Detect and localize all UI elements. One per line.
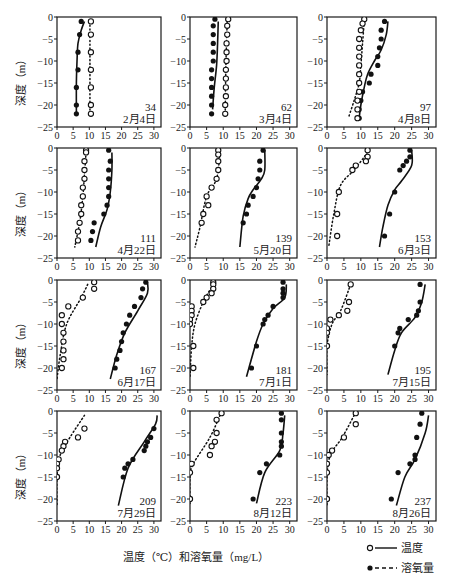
x-tick-label: 0 bbox=[55, 524, 60, 535]
dissolved-oxygen-point bbox=[206, 203, 211, 208]
temperature-point bbox=[121, 330, 126, 335]
dissolved-oxygen-point bbox=[83, 150, 88, 155]
x-tick-label: 10 bbox=[84, 524, 94, 535]
temperature-curve bbox=[246, 284, 286, 376]
x-tick-label: 30 bbox=[149, 261, 159, 272]
temperature-point bbox=[246, 203, 251, 208]
dissolved-oxygen-point bbox=[61, 330, 66, 335]
x-tick-label: 20 bbox=[117, 524, 127, 535]
temperature-point bbox=[251, 496, 256, 501]
temperature-point bbox=[125, 461, 130, 466]
y-axis-title: 深度（m） bbox=[14, 448, 27, 501]
dissolved-oxygen-point bbox=[209, 291, 214, 296]
plot-area bbox=[349, 17, 388, 121]
temperature-point bbox=[261, 321, 266, 326]
y-tick-label: −5 bbox=[42, 165, 53, 176]
panel-date: 8月12日 bbox=[254, 507, 293, 519]
x-tick-label: 15 bbox=[373, 393, 383, 404]
dissolved-oxygen-point bbox=[75, 238, 80, 243]
temperature-point bbox=[212, 17, 217, 22]
dissolved-oxygen-curve bbox=[327, 415, 354, 505]
y-tick-label: −15 bbox=[37, 78, 53, 89]
panel-date: 7月29日 bbox=[118, 507, 157, 519]
dissolved-oxygen-point bbox=[204, 194, 209, 199]
temperature-point bbox=[265, 313, 270, 318]
temperature-point bbox=[92, 220, 97, 225]
x-tick-label: 30 bbox=[424, 524, 434, 535]
panel-223: 0510152025300−5−10−15−20−252238月12日 bbox=[170, 406, 297, 536]
y-tick-label: 0 bbox=[48, 275, 53, 286]
x-axis: 051015202530 bbox=[188, 390, 295, 404]
y-tick-label: 0 bbox=[181, 12, 186, 23]
y-tick-label: −25 bbox=[307, 253, 323, 264]
x-tick-label: 30 bbox=[285, 130, 295, 141]
temperature-point bbox=[211, 41, 216, 46]
y-tick-label: −20 bbox=[37, 363, 53, 374]
dissolved-oxygen-point bbox=[79, 203, 84, 208]
y-tick-label: −15 bbox=[307, 209, 323, 220]
panel-day-number: 209 bbox=[140, 495, 157, 507]
dissolved-oxygen-point bbox=[59, 365, 64, 370]
x-tick-label: 10 bbox=[84, 261, 94, 272]
temperature-point bbox=[414, 313, 419, 318]
temperature-curve bbox=[96, 152, 112, 247]
legend: 温度 溶氧量 bbox=[367, 541, 434, 574]
temperature-point bbox=[401, 163, 406, 168]
panel-day-number: 237 bbox=[415, 495, 432, 507]
panel-34: 0510152025300−5−10−15−20−25342月4日 bbox=[37, 12, 161, 142]
dissolved-oxygen-point bbox=[82, 159, 87, 164]
temperature-point bbox=[375, 54, 380, 59]
dissolved-oxygen-point bbox=[223, 76, 228, 81]
y-tick-label: −10 bbox=[170, 56, 186, 67]
y-tick-label: −20 bbox=[37, 494, 53, 505]
temperature-point bbox=[74, 102, 79, 107]
y-tick-label: −15 bbox=[37, 341, 53, 352]
y-tick-label: −5 bbox=[312, 428, 323, 439]
panel-97: 0510152025300−5−10−15−20−25974月8日 bbox=[307, 12, 436, 142]
y-axis: 0−5−10−15−20−25 bbox=[307, 12, 327, 133]
temperature-point bbox=[151, 426, 156, 431]
x-tick-label: 15 bbox=[373, 261, 383, 272]
y-axis: 0−5−10−15−20−25 bbox=[307, 406, 327, 527]
dissolved-oxygen-point bbox=[82, 167, 87, 172]
x-tick-label: 20 bbox=[251, 524, 261, 535]
temperature-curve bbox=[359, 21, 388, 118]
temperature-point bbox=[140, 286, 145, 291]
dissolved-oxygen-point bbox=[336, 313, 341, 318]
x-tick-label: 20 bbox=[251, 130, 261, 141]
temperature-point bbox=[114, 357, 119, 362]
temperature-point bbox=[74, 85, 79, 90]
y-tick-label: −25 bbox=[307, 385, 323, 396]
x-tick-label: 15 bbox=[235, 524, 245, 535]
temperature-point bbox=[389, 496, 394, 501]
y-tick-label: −10 bbox=[170, 450, 186, 461]
dissolved-oxygen-point bbox=[201, 299, 206, 304]
dissolved-oxygen-point bbox=[348, 282, 353, 287]
y-tick-label: −15 bbox=[37, 472, 53, 483]
x-tick-label: 10 bbox=[356, 261, 366, 272]
y-tick-label: −25 bbox=[170, 122, 186, 133]
dissolved-oxygen-point bbox=[224, 41, 229, 46]
y-tick-label: −20 bbox=[37, 100, 53, 111]
dissolved-oxygen-point bbox=[224, 58, 229, 63]
dissolved-oxygen-point bbox=[59, 313, 64, 318]
y-axis: 0−5−10−15−20−25 bbox=[170, 143, 190, 264]
temperature-point bbox=[249, 365, 254, 370]
x-tick-label: 20 bbox=[117, 261, 127, 272]
x-tick-label: 25 bbox=[133, 130, 143, 141]
y-tick-label: −20 bbox=[307, 363, 323, 374]
x-tick-label: 20 bbox=[390, 393, 400, 404]
x-tick-label: 5 bbox=[204, 524, 209, 535]
temperature-point bbox=[75, 67, 80, 72]
y-tick-label: −20 bbox=[307, 494, 323, 505]
dissolved-oxygen-point bbox=[216, 159, 221, 164]
dissolved-oxygen-point bbox=[336, 189, 341, 194]
plot-area bbox=[324, 411, 428, 506]
dissolved-oxygen-point bbox=[216, 167, 221, 172]
dissolved-oxygen-point bbox=[214, 430, 219, 435]
temperature-point bbox=[209, 76, 214, 81]
dissolved-oxygen-point bbox=[207, 452, 212, 457]
temperature-point bbox=[387, 211, 392, 216]
x-tick-label: 10 bbox=[218, 130, 228, 141]
temperature-point bbox=[279, 444, 284, 449]
